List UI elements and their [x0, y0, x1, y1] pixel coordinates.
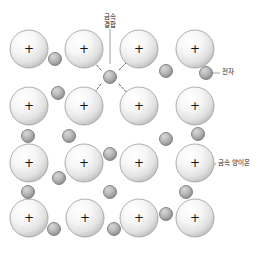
free-electron-3 — [160, 65, 173, 78]
metal-cation: + — [120, 87, 158, 125]
label-metal-cation-line1: 금속 양이온 — [218, 160, 250, 168]
metal-cation-plus-sign-15: + — [134, 211, 144, 225]
metal-cation-plus-sign-7: + — [134, 99, 144, 113]
metal-cation-plus-sign-2: + — [79, 42, 89, 56]
free-electron-9 — [192, 128, 205, 141]
free-electron-11 — [53, 172, 66, 185]
free-electron-13 — [104, 186, 117, 199]
metal-cation-plus-sign-4: + — [190, 42, 200, 56]
bond-dash-line-4 — [119, 84, 127, 93]
metal-cation-plus-sign-13: + — [24, 211, 34, 225]
metal-cation: + — [176, 30, 214, 68]
metal-cation: + — [65, 30, 103, 68]
label-electron: 전자 — [222, 69, 234, 77]
metal-cation: + — [176, 199, 214, 237]
metal-cation-plus-sign-5: + — [24, 99, 34, 113]
free-electron-7 — [63, 130, 76, 143]
label-electron-line1: 전자 — [222, 69, 234, 77]
metal-cation: + — [65, 144, 103, 182]
free-electron-10 — [104, 148, 117, 161]
metal-cation-plus-sign-16: + — [190, 211, 200, 225]
metal-cation: + — [10, 87, 48, 125]
metal-cation-plus-sign-1: + — [24, 42, 34, 56]
free-electron-5 — [52, 87, 65, 100]
free-electron-1 — [49, 53, 62, 66]
metal-cation-plus-sign-3: + — [134, 42, 144, 56]
metal-cation: + — [10, 199, 48, 237]
label-metallic-bond: 금속결합 — [90, 14, 130, 29]
free-electron-16 — [108, 223, 121, 236]
metal-cation-layer: ++++++++++++++++ — [10, 30, 214, 237]
free-electron-12 — [22, 186, 35, 199]
free-electron-2 — [104, 71, 117, 84]
metal-cation: + — [120, 199, 158, 237]
label-metal-cation: 금속 양이온 — [218, 160, 250, 168]
metal-cation-plus-sign-9: + — [24, 156, 34, 170]
metal-cation: + — [65, 87, 103, 125]
free-electron-4 — [200, 67, 213, 80]
diagram-canvas: ++++++++++++++++ — [0, 0, 260, 256]
metal-cation: + — [66, 199, 104, 237]
metal-cation-plus-sign-12: + — [190, 156, 200, 170]
metal-cation: + — [10, 144, 48, 182]
metal-cation: + — [176, 144, 214, 182]
free-electron-6 — [22, 130, 35, 143]
free-electron-17 — [160, 208, 173, 221]
free-electron-14 — [180, 186, 193, 199]
metal-cation-plus-sign-11: + — [134, 156, 144, 170]
metal-cation: + — [10, 30, 48, 68]
label-metallic-bond-line2: 결합 — [90, 22, 130, 30]
metal-cation: + — [120, 30, 158, 68]
metallic-bonding-diagram: ++++++++++++++++ 금속결합전자금속 양이온 — [0, 0, 260, 256]
metal-cation: + — [176, 87, 214, 125]
metal-cation-plus-sign-6: + — [79, 99, 89, 113]
free-electron-8 — [160, 133, 173, 146]
metal-cation: + — [120, 144, 158, 182]
free-electron-15 — [48, 223, 61, 236]
metal-cation-plus-sign-14: + — [80, 211, 90, 225]
metal-cation-plus-sign-10: + — [79, 156, 89, 170]
metal-cation-plus-sign-8: + — [190, 99, 200, 113]
